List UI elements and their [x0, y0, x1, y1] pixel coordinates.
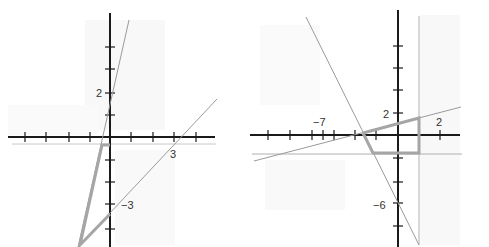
right-label-neg7: −7	[313, 116, 326, 128]
left-label-3: 3	[170, 148, 176, 160]
left-label-2: 2	[96, 87, 102, 99]
right-label-y2: 2	[383, 108, 389, 120]
left-shading	[8, 20, 175, 245]
right-label-x2: 2	[436, 116, 442, 128]
right-label-neg6: −6	[373, 199, 386, 211]
graphs-canvas: 2 3 −3	[0, 0, 489, 247]
left-label-neg3: −3	[121, 199, 134, 211]
